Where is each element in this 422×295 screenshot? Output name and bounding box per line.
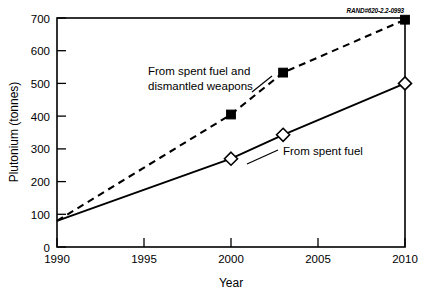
x-tick-label: 1995 bbox=[131, 253, 157, 265]
plot-frame bbox=[57, 18, 405, 247]
y-axis-title: Plutonium (tonnes) bbox=[7, 82, 21, 183]
y-tick-label: 0 bbox=[44, 242, 50, 254]
annotation-line-1: From spent fuel bbox=[283, 145, 363, 157]
annotation-line-1: From spent fuel and bbox=[148, 65, 250, 77]
series-markers-dismantled-weapons bbox=[227, 15, 410, 119]
y-tick-label: 200 bbox=[31, 176, 50, 188]
y-tick-label: 300 bbox=[31, 143, 50, 155]
plutonium-projection-chart: RAND#620-2.2-0993 0 100 200 300 400 500 … bbox=[0, 0, 422, 295]
y-tick-label: 500 bbox=[31, 78, 50, 90]
data-point-marker bbox=[401, 15, 410, 24]
y-axis-tick-labels: 0 100 200 300 400 500 600 700 bbox=[31, 13, 50, 254]
chart-canvas: RAND#620-2.2-0993 0 100 200 300 400 500 … bbox=[0, 0, 422, 295]
data-point-marker bbox=[277, 128, 290, 141]
x-tick-label: 2000 bbox=[218, 253, 244, 265]
annotation-spent-fuel: From spent fuel bbox=[247, 145, 363, 164]
rand-document-id: RAND#620-2.2-0993 bbox=[347, 7, 405, 14]
data-point-marker bbox=[227, 110, 236, 119]
y-tick-label: 700 bbox=[31, 13, 50, 25]
y-tick-label: 400 bbox=[31, 111, 50, 123]
y-axis-ticks bbox=[57, 18, 66, 247]
x-tick-label: 2010 bbox=[392, 253, 418, 265]
x-axis-ticks bbox=[57, 238, 405, 247]
data-point-marker bbox=[225, 152, 238, 165]
x-axis-title: Year bbox=[219, 276, 243, 290]
annotation-line-2: dismantled weapons bbox=[148, 80, 253, 92]
data-point-marker bbox=[279, 68, 288, 77]
x-tick-label: 2005 bbox=[305, 253, 331, 265]
annotation-leader-line bbox=[247, 150, 278, 164]
series-line-dismantled-weapons bbox=[57, 20, 405, 221]
y-tick-label: 600 bbox=[31, 45, 50, 57]
y-tick-label: 100 bbox=[31, 209, 50, 221]
annotation-dismantled-weapons: From spent fuel and dismantled weapons bbox=[148, 65, 272, 92]
x-axis-tick-labels: 1990 1995 2000 2005 2010 bbox=[44, 253, 418, 265]
data-point-marker bbox=[399, 77, 412, 90]
x-tick-label: 1990 bbox=[44, 253, 70, 265]
